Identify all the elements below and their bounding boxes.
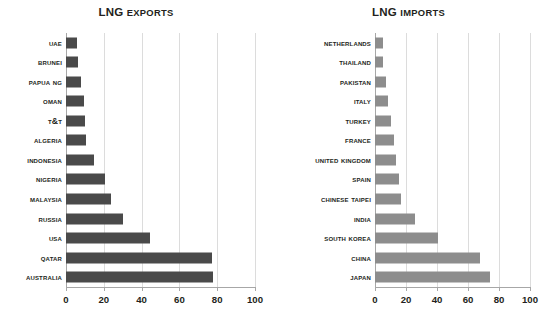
bar-track	[66, 228, 255, 248]
bar	[66, 96, 84, 107]
category-label: Papua NG	[0, 72, 68, 92]
bar-track	[375, 189, 530, 209]
bar-rows: UAEBruneiPapua NGOmanT&TAlgeriaIndonesia…	[0, 33, 272, 287]
bar	[66, 233, 150, 244]
bar-track	[66, 150, 255, 170]
bar	[375, 194, 401, 205]
x-axis-ticks: 020406080100	[272, 291, 545, 309]
bar	[66, 57, 78, 68]
category-label: Malaysia	[0, 189, 68, 209]
bar-track	[375, 53, 530, 73]
x-tick-label: 100	[522, 294, 538, 305]
category-label: Japan	[272, 267, 377, 287]
bar	[375, 252, 480, 263]
bar-track	[66, 72, 255, 92]
bar-track	[375, 92, 530, 112]
bar	[375, 115, 391, 126]
bar-track	[375, 248, 530, 268]
category-label: Russia	[0, 209, 68, 229]
category-label: USA	[0, 228, 68, 248]
bar-track	[66, 131, 255, 151]
bar-track	[66, 189, 255, 209]
category-label: Pakistan	[272, 72, 377, 92]
x-tick-label: 60	[463, 294, 474, 305]
bar	[66, 194, 111, 205]
tick-mark-20	[104, 287, 105, 291]
bar-rows: NetherlandsThailandPakistanItalyTurkeyFr…	[272, 33, 545, 287]
bar-track	[375, 150, 530, 170]
category-label: Australia	[0, 267, 68, 287]
bar-row: India	[272, 209, 545, 229]
category-label: T&T	[0, 111, 68, 131]
bar	[375, 154, 396, 165]
bar-row: Papua NG	[0, 72, 272, 92]
tick-mark-100	[530, 287, 531, 291]
bar-track	[375, 170, 530, 190]
bar	[375, 272, 490, 283]
bar	[66, 76, 81, 87]
bar-track	[375, 209, 530, 229]
bar	[66, 252, 212, 263]
tick-mark-40	[437, 287, 438, 291]
category-label: France	[272, 131, 377, 151]
category-label: Turkey	[272, 111, 377, 131]
bar-row: Australia	[0, 267, 272, 287]
bar	[375, 135, 394, 146]
bar-row: Netherlands	[272, 33, 545, 53]
bar-row: Malaysia	[0, 189, 272, 209]
bar-row: Qatar	[0, 248, 272, 268]
bar-row: South Korea	[272, 228, 545, 248]
x-axis-line	[375, 287, 530, 288]
bar	[375, 96, 388, 107]
tick-mark-80	[499, 287, 500, 291]
bar-track	[66, 267, 255, 287]
bar-row: Italy	[272, 92, 545, 112]
x-tick-label: 20	[401, 294, 412, 305]
bar-row: Russia	[0, 209, 272, 229]
bar	[66, 135, 86, 146]
x-axis-line	[66, 287, 255, 288]
tick-mark-40	[142, 287, 143, 291]
bar-track	[66, 33, 255, 53]
category-label: India	[272, 209, 377, 229]
bar-row: UAE	[0, 33, 272, 53]
x-tick-label: 80	[212, 294, 223, 305]
bar	[66, 115, 85, 126]
category-label: Brunei	[0, 53, 68, 73]
category-label: Thailand	[272, 53, 377, 73]
bar	[66, 154, 94, 165]
category-label: South Korea	[272, 228, 377, 248]
x-tick-label: 80	[494, 294, 505, 305]
bar-track	[66, 248, 255, 268]
bar-row: T&T	[0, 111, 272, 131]
lng-trade-charts: LNG EXPORTS UAEBruneiPapua NGOmanT&TAlge…	[0, 0, 545, 313]
tick-mark-60	[179, 287, 180, 291]
bar-track	[375, 111, 530, 131]
x-axis-ticks: 020406080100	[0, 291, 272, 309]
tick-mark-0	[66, 287, 67, 291]
bar-track	[66, 53, 255, 73]
bar	[375, 174, 399, 185]
bar-row: Oman	[0, 92, 272, 112]
bar-row: USA	[0, 228, 272, 248]
bar-track	[375, 267, 530, 287]
bar	[66, 37, 77, 48]
bar	[375, 213, 415, 224]
tick-mark-0	[375, 287, 376, 291]
category-label: Italy	[272, 92, 377, 112]
bar-track	[66, 170, 255, 190]
tick-mark-100	[255, 287, 256, 291]
bar-track	[375, 72, 530, 92]
category-label: Indonesia	[0, 150, 68, 170]
category-label: Spain	[272, 170, 377, 190]
bar-row: Spain	[272, 170, 545, 190]
bar-row: Chinese Taipei	[272, 189, 545, 209]
bar-track	[375, 228, 530, 248]
category-label: Oman	[0, 92, 68, 112]
bar-row: Algeria	[0, 131, 272, 151]
bar-row: Nigeria	[0, 170, 272, 190]
bar-track	[375, 33, 530, 53]
bar	[66, 213, 123, 224]
x-tick-label: 0	[372, 294, 377, 305]
bar-row: Thailand	[272, 53, 545, 73]
